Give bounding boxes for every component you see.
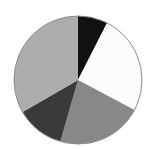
- pie-chart-svg: [0, 0, 146, 150]
- pie-chart-figure: [0, 0, 146, 150]
- pie-slices: [14, 16, 142, 144]
